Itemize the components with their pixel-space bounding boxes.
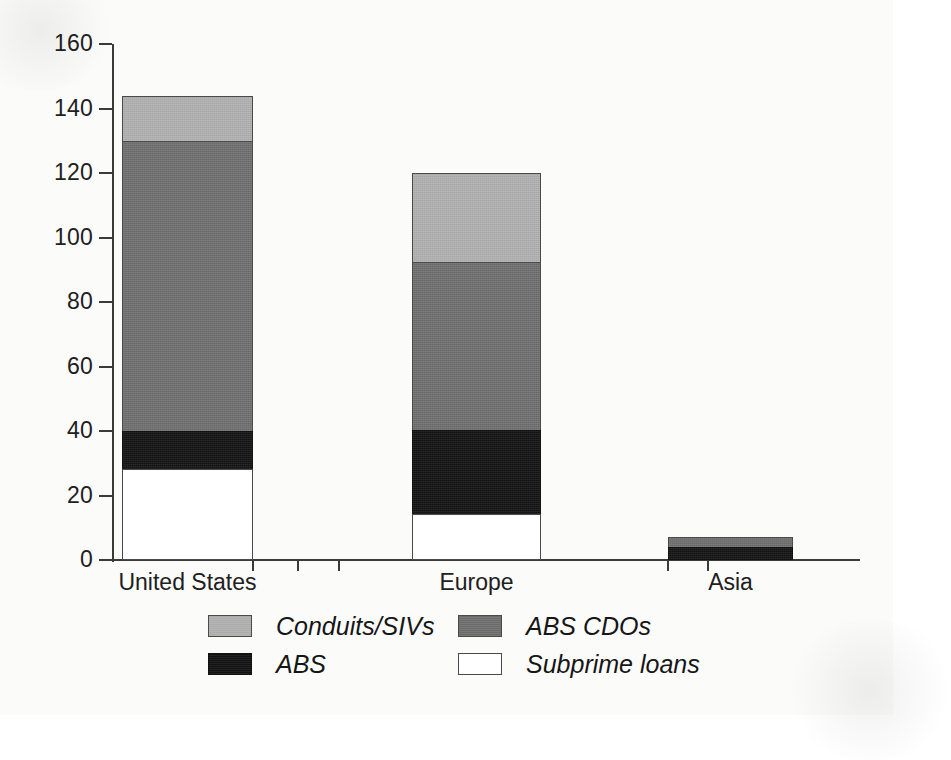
y-tick-0: [99, 559, 112, 561]
legend-label-abs: ABS: [276, 650, 326, 678]
bar-segment-subprime-loans: [122, 469, 253, 560]
legend-swatch-abs-cdos: [458, 615, 502, 637]
legend-row-2: ABS Subprime loans: [208, 645, 768, 683]
y-axis-label-140: 140: [9, 97, 93, 120]
y-tick-140: [99, 108, 112, 110]
y-axis-label-100: 100: [9, 226, 93, 249]
y-axis-label-40: 40: [9, 419, 93, 442]
x-tick-3: [338, 560, 340, 571]
legend-label-subprime-loans: Subprime loans: [526, 650, 700, 678]
bar-segment-abs-cdos: [412, 262, 541, 431]
bar-europe: [412, 173, 541, 560]
legend-item-abs-cdos[interactable]: ABS CDOs: [458, 612, 758, 640]
y-axis-line: [112, 44, 114, 562]
y-axis-label-20: 20: [9, 484, 93, 507]
y-axis-label-160: 160: [9, 32, 93, 55]
bar-segment-conduits-sivs: [122, 96, 253, 142]
y-axis-label-60: 60: [9, 355, 93, 378]
bar-asia: [668, 537, 793, 560]
x-axis-category-europe: Europe: [400, 568, 553, 596]
y-axis-label-80: 80: [9, 290, 93, 313]
legend-row-1: Conduits/SIVs ABS CDOs: [208, 607, 768, 645]
y-tick-60: [99, 366, 112, 368]
y-tick-100: [99, 237, 112, 239]
legend-swatch-subprime-loans: [458, 653, 502, 675]
legend-item-conduits-sivs[interactable]: Conduits/SIVs: [208, 612, 458, 640]
y-tick-20: [99, 495, 112, 497]
legend-label-abs-cdos: ABS CDOs: [526, 612, 651, 640]
legend-item-abs[interactable]: ABS: [208, 650, 458, 678]
bar-united-states: [122, 96, 253, 560]
chart-legend: Conduits/SIVs ABS CDOs ABS Subprime loan…: [208, 607, 768, 683]
x-axis-category-asia: Asia: [668, 568, 793, 596]
legend-swatch-abs: [208, 653, 252, 675]
bar-segment-conduits-sivs: [412, 173, 541, 263]
y-tick-40: [99, 430, 112, 432]
legend-swatch-conduits-sivs: [208, 615, 252, 637]
legend-item-subprime-loans[interactable]: Subprime loans: [458, 650, 758, 678]
x-tick-2: [297, 560, 299, 571]
y-axis-label-0: 0: [9, 548, 93, 571]
bar-segment-abs-cdos: [122, 141, 253, 432]
y-tick-120: [99, 172, 112, 174]
x-axis-category-united-states: United States: [100, 568, 275, 596]
bar-segment-abs: [668, 547, 793, 560]
y-tick-160: [99, 43, 112, 45]
bar-segment-abs: [412, 430, 541, 515]
y-tick-80: [99, 301, 112, 303]
y-axis-label-120: 120: [9, 161, 93, 184]
bar-segment-abs: [122, 431, 253, 470]
legend-label-conduits-sivs: Conduits/SIVs: [276, 612, 434, 640]
bar-segment-subprime-loans: [412, 514, 541, 560]
